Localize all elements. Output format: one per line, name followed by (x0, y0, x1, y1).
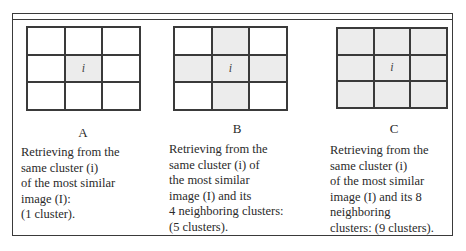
grid-cell-center: i (212, 55, 250, 83)
cluster-grid-a: i (26, 26, 141, 111)
grid-cell (212, 82, 250, 110)
grid-cell-center: i (374, 55, 411, 82)
grid-cell (102, 55, 140, 83)
panel-description-c: Retrieving from the same cluster (i) of … (330, 143, 434, 236)
grid-cell (212, 27, 250, 55)
grid-cell (27, 82, 65, 110)
center-cluster-label: i (82, 61, 85, 76)
grid-cell (337, 81, 374, 108)
panel-letter-c: C (379, 121, 409, 137)
frame-header-line (12, 19, 453, 20)
panel-letter-a: A (68, 125, 98, 141)
center-cluster-label: i (390, 60, 393, 75)
grid-cell (102, 82, 140, 110)
cluster-grid-c: i (336, 27, 448, 109)
cluster-grid-b: i (173, 26, 288, 111)
center-cluster-label: i (229, 61, 232, 76)
panel-description-b: Retrieving from the same cluster (i) of … (169, 142, 284, 235)
grid-cell (249, 82, 287, 110)
grid-cell (65, 82, 103, 110)
grid-cell (410, 28, 447, 55)
grid-cell (410, 81, 447, 108)
grid-cell-center: i (65, 55, 103, 83)
grid-cell (337, 28, 374, 55)
panel-letter-b: B (222, 121, 252, 137)
grid-cell (27, 55, 65, 83)
grid-cell (249, 27, 287, 55)
panel-description-a: Retrieving from the same cluster (i) of … (21, 145, 120, 223)
grid-cell (337, 55, 374, 82)
grid-cell (249, 55, 287, 83)
grid-cell (27, 27, 65, 55)
grid-cell (174, 27, 212, 55)
grid-cell (374, 81, 411, 108)
grid-cell (174, 55, 212, 83)
grid-cell (374, 28, 411, 55)
grid-cell (410, 55, 447, 82)
grid-cell (174, 82, 212, 110)
grid-cell (102, 27, 140, 55)
grid-cell (65, 27, 103, 55)
